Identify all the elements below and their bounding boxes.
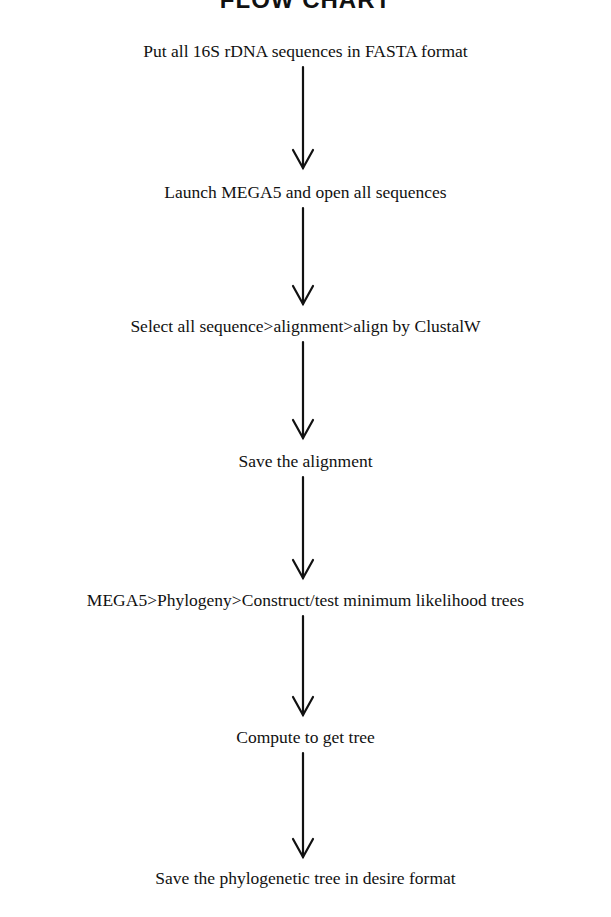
arrow-2-to-3 <box>293 208 313 304</box>
arrow-1-to-2 <box>293 67 313 168</box>
flow-arrows <box>0 0 611 917</box>
arrow-4-to-5 <box>293 477 313 578</box>
arrow-5-to-6 <box>293 616 313 715</box>
arrow-6-to-7 <box>293 753 313 857</box>
arrow-3-to-4 <box>293 342 313 438</box>
